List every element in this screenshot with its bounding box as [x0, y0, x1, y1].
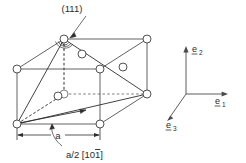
coordinate-axes: [167, 46, 228, 121]
face-atom-front: [54, 92, 62, 100]
axis-label-e3: e: [166, 120, 171, 130]
fcc-unit-cell-figure: (111) a a/2 [101]: [0, 0, 246, 163]
edge-ftl-to-btl: [17, 39, 64, 69]
corner-atom-back-top-left: [60, 35, 68, 43]
axis-label-e2: e: [192, 44, 197, 54]
axis-arrow-e1: [222, 91, 228, 96]
burgers-prefix: a/2 [10: [66, 149, 95, 160]
edge-fbr-to-bbr: [100, 94, 147, 124]
plane-edge-left: [17, 39, 64, 124]
axis-line-e3: [170, 94, 186, 117]
axis-label-e2-subscript: 2: [199, 49, 203, 56]
burgers-arrow-head: [80, 109, 86, 113]
axis-label-e1: e: [215, 96, 220, 106]
plane-indices-label: (111): [62, 3, 83, 14]
lattice-parameter-label: a: [55, 130, 61, 141]
figure-root: (111) a a/2 [101]: [0, 0, 246, 163]
axis-label-e3-group: e 3: [166, 120, 177, 132]
dim-arrow-left: [17, 133, 23, 137]
plane-label-leader: [70, 16, 86, 38]
face-atom-right: [119, 63, 127, 71]
corner-atom-front-bottom-left: [13, 120, 21, 128]
corner-atom-back-bottom-right: [143, 90, 151, 98]
dim-arrow-right: [94, 133, 100, 137]
axis-label-e3-subscript: 3: [173, 125, 177, 132]
corner-atom-front-bottom-right: [96, 120, 104, 128]
axis-label-e2-group: e 2: [192, 44, 203, 56]
axis-arrow-e2: [183, 46, 188, 52]
corner-atom-front-top-right: [96, 65, 104, 73]
axis-label-e1-subscript: 1: [222, 101, 226, 108]
leader-arrow-burgers: [50, 124, 55, 129]
corner-atom-back-top-right: [143, 35, 151, 43]
corner-atom-front-top-left: [13, 65, 21, 73]
axis-label-e1-group: e 1: [215, 96, 226, 108]
corner-atoms: [13, 35, 151, 128]
burgers-vector-label: a/2 [101]: [66, 149, 103, 160]
face-atom-top: [78, 50, 86, 58]
burgers-suffix: ]: [100, 149, 103, 160]
burgers-arrow-shaft: [19, 110, 86, 123]
